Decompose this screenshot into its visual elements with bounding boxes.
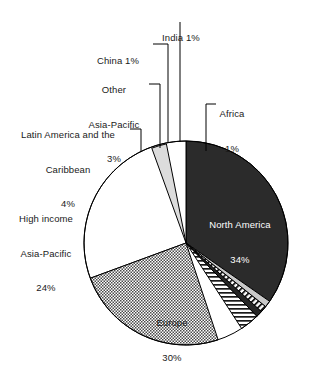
slice-label-africa: Africa 1% — [205, 85, 259, 177]
leader-line-other-asia-pacific — [149, 84, 160, 148]
slice-label-north-america-pct: 34% — [196, 254, 284, 266]
slice-label-other-asia-pacific-line1: Other — [81, 84, 147, 96]
slice-label-africa-name: Africa — [205, 108, 259, 120]
slice-label-africa-pct: 1% — [205, 143, 259, 155]
slice-label-europe-name: Europe — [139, 317, 205, 329]
pie-chart: India 1% China 1% Other Asia-Pacific 3% … — [0, 0, 310, 367]
slice-label-india: India 1% — [150, 9, 212, 67]
slice-label-india-text: India 1% — [150, 32, 212, 44]
slice-label-high-income-pct: 24% — [8, 282, 84, 294]
slice-label-high-income-line2: Asia-Pacific — [8, 248, 84, 260]
slice-label-high-income-line1: High income — [8, 213, 84, 225]
slice-label-high-income-asia-pacific: High income Asia-Pacific 24% — [8, 190, 84, 317]
slice-label-north-america-name: North America — [196, 219, 284, 231]
slice-label-latin-america-line2: Caribbean — [6, 164, 130, 176]
slice-label-north-america: North America 34% — [196, 196, 284, 288]
slice-label-latin-america-line1: Latin America and the — [6, 129, 130, 141]
slice-label-europe: Europe 30% — [139, 294, 205, 367]
slice-label-europe-pct: 30% — [139, 352, 205, 364]
